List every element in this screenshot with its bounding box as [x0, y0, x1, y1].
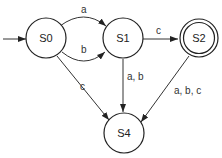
state-label-s4: S4	[117, 127, 130, 139]
edge-label-s0-s1-a: a	[81, 4, 87, 15]
edge-label-s0-s4-c: c	[80, 81, 85, 92]
state-label-s0: S0	[39, 32, 52, 44]
state-diagram: a b c c a, b a, b, c S0 S1 S2 S4	[0, 0, 222, 158]
state-s1: S1	[103, 18, 143, 58]
edge-label-s0-s1-b: b	[81, 44, 87, 55]
state-label-s2: S2	[192, 32, 205, 44]
state-s0: S0	[26, 18, 66, 58]
edge-s0-s1-a	[60, 17, 106, 26]
state-s2-accepting: S2	[180, 19, 218, 57]
edge-label-s2-s4-abc: a, b, c	[174, 85, 201, 96]
edge-label-s1-s2-c: c	[156, 25, 161, 36]
state-s4: S4	[104, 113, 144, 153]
state-label-s1: S1	[116, 32, 129, 44]
edge-label-s1-s4-ab: a, b	[127, 71, 144, 82]
